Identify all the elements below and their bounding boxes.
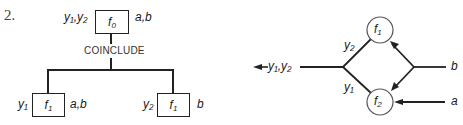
output-arrow-icon (253, 64, 262, 70)
child-2-inputs-label: b (197, 97, 204, 111)
child-1-function-label: f1 (45, 98, 53, 113)
flow-output-label: y₁,y₂ (268, 59, 292, 73)
root-function-box: f0 (95, 10, 129, 34)
node-f2-label: f2 (374, 94, 382, 109)
root-outputs-label: y₁,y₂ (64, 10, 88, 24)
flow-input-b-label: b (451, 59, 458, 73)
flow-input-a-label: a (451, 94, 458, 108)
child-2-function-box: f1 (157, 93, 190, 117)
child-1-function-box: f1 (32, 93, 65, 117)
child-2-function-label: f1 (170, 98, 178, 113)
root-function-label: f0 (108, 15, 116, 30)
flow-lower-branch-label: y₁ (344, 80, 354, 94)
coinclude-label: COINCLUDE (84, 45, 145, 56)
child-1-outputs-label: y₁ (18, 97, 28, 111)
node-f1-label: f1 (374, 22, 382, 37)
root-inputs-label: a,b (135, 10, 152, 24)
child-1-inputs-label: a,b (70, 97, 87, 111)
flow-upper-branch-label: y₂ (344, 38, 355, 52)
child-2-outputs-label: y₂ (143, 97, 154, 111)
